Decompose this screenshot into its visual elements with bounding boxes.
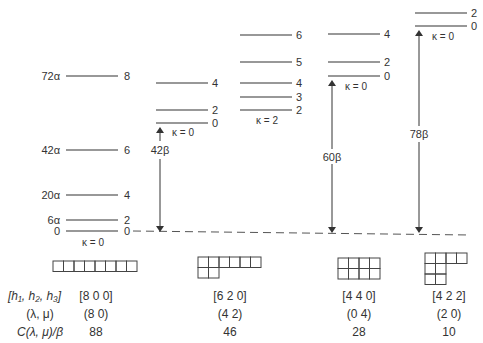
column-440-band: 4 2 0 κ = 0 xyxy=(328,28,390,92)
energy-label: 72α xyxy=(41,70,60,82)
level-spin: 0 xyxy=(384,70,390,82)
level-spin: 4 xyxy=(212,77,218,89)
level-spin: 2 xyxy=(212,104,218,116)
level-spin: 4 xyxy=(124,189,130,201)
column-620-kappa0-band: 4 2 0 κ = 0 xyxy=(156,77,218,138)
energy-label: 42α xyxy=(41,144,60,156)
arrow-label: 78β xyxy=(410,128,429,140)
ground-baseline xyxy=(133,231,470,235)
level-spin: 0 xyxy=(212,117,218,129)
energy-level-diagram: 72α 8 42α 6 20α 4 6α 2 0 0 κ = 0 4 2 0 κ… xyxy=(0,0,483,343)
kappa-label: κ = 0 xyxy=(432,31,454,42)
lambda-mu-value: (8 0) xyxy=(84,307,109,321)
kappa-label: κ = 2 xyxy=(256,115,278,126)
column-620-kappa2-band: 6 5 4 3 2 κ = 2 xyxy=(240,29,302,126)
kappa-label: κ = 0 xyxy=(345,81,367,92)
h-value: [4 4 0] xyxy=(342,289,375,303)
excitation-arrow-78beta: 78β xyxy=(410,33,429,230)
column-422-band: 2 0 κ = 0 xyxy=(415,7,477,42)
level-spin: 4 xyxy=(296,77,302,89)
kappa-label: κ = 0 xyxy=(172,127,194,138)
row-label-h: [h₁, h₂, h₃] xyxy=(7,289,62,303)
lambda-mu-value: (2 0) xyxy=(437,307,462,321)
level-spin: 2 xyxy=(384,56,390,68)
excitation-arrow-42beta: 42β xyxy=(151,130,170,229)
h-value: [4 2 2] xyxy=(432,289,465,303)
arrow-label: 60β xyxy=(323,151,342,163)
young-diagram-440 xyxy=(338,258,380,279)
level-spin: 2 xyxy=(296,104,302,116)
kappa-label: κ = 0 xyxy=(82,237,104,248)
level-spin: 0 xyxy=(124,225,130,237)
casimir-value: 28 xyxy=(352,325,366,339)
casimir-value: 88 xyxy=(89,325,103,339)
casimir-value: 10 xyxy=(442,325,456,339)
young-diagram-620 xyxy=(198,257,261,278)
column-800-band: 72α 8 42α 6 20α 4 6α 2 0 0 κ = 0 xyxy=(41,70,130,248)
level-spin: 5 xyxy=(296,56,302,68)
casimir-value: 46 xyxy=(223,325,237,339)
energy-label: 0 xyxy=(54,225,60,237)
h-value: [6 2 0] xyxy=(213,289,246,303)
level-spin: 2 xyxy=(471,7,477,19)
level-spin: 0 xyxy=(471,20,477,32)
lambda-mu-value: (4 2) xyxy=(218,307,243,321)
level-spin: 4 xyxy=(384,28,390,40)
arrow-label: 42β xyxy=(151,144,170,156)
excitation-arrow-60beta: 60β xyxy=(323,83,342,230)
h-value: [8 0 0] xyxy=(79,289,112,303)
level-spin: 3 xyxy=(296,91,302,103)
row-label-lambda-mu: (λ, μ) xyxy=(26,307,54,321)
level-spin: 8 xyxy=(124,70,130,82)
lambda-mu-value: (0 4) xyxy=(347,307,372,321)
young-diagram-422 xyxy=(425,253,467,285)
energy-label: 20α xyxy=(41,189,60,201)
level-spin: 6 xyxy=(296,29,302,41)
level-spin: 6 xyxy=(124,144,130,156)
young-diagram-800 xyxy=(53,261,137,272)
row-label-casimir: C(λ, μ)/β xyxy=(17,325,63,339)
